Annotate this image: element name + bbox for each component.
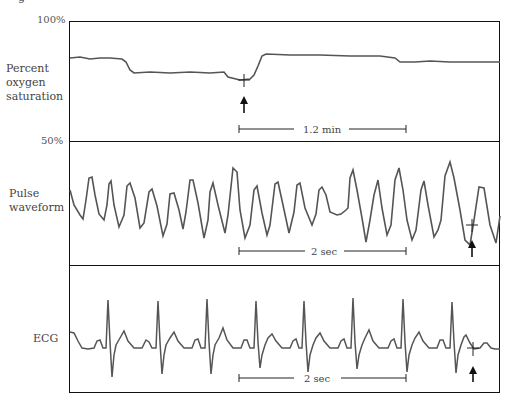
oxygen-scale-label: 1.2 min <box>303 124 342 135</box>
pulse-trace <box>70 162 500 245</box>
pulse-marker-icon <box>466 219 478 257</box>
ecg-trace <box>70 298 500 377</box>
ecg-scale-label: 2 sec <box>304 373 331 384</box>
pulse-scale-bar: 2 sec <box>239 246 406 257</box>
pulse-scale-label: 2 sec <box>311 246 338 257</box>
ecg-scale-bar: 2 sec <box>239 373 406 384</box>
ecg-marker-icon <box>467 342 479 382</box>
traces: 1.2 min 2 sec 2 sec <box>0 0 511 406</box>
oxygen-trace <box>70 54 500 80</box>
oxygen-scale-bar: 1.2 min <box>239 124 406 135</box>
oxygen-marker-icon <box>238 74 250 113</box>
